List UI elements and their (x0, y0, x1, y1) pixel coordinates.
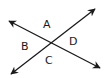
angle-label-a: A (43, 18, 51, 31)
angle-label-b: B (21, 40, 29, 53)
angle-label-c: C (45, 54, 53, 67)
angle-label-d: D (69, 35, 77, 48)
intersecting-lines-diagram: A B C D (0, 0, 104, 78)
